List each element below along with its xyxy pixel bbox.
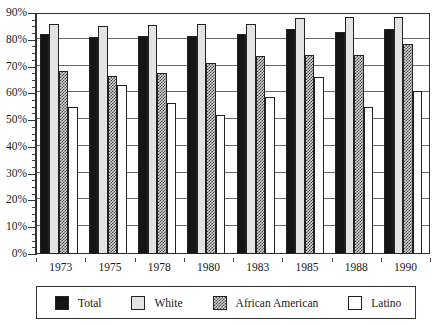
bar <box>157 73 167 254</box>
bar <box>256 56 266 254</box>
y-axis-tick <box>28 93 35 94</box>
x-axis-tick <box>282 258 283 262</box>
bar <box>246 24 256 254</box>
bar-cluster <box>135 13 184 254</box>
y-axis-tick <box>28 254 35 255</box>
bar <box>286 29 296 254</box>
y-axis-tick <box>28 120 35 121</box>
x-axis-tick <box>233 258 234 262</box>
bar <box>68 107 78 254</box>
y-axis-tick-label: 70% <box>6 61 27 73</box>
bar <box>314 77 324 254</box>
x-axis-tick-label: 1973 <box>49 261 72 273</box>
bar <box>295 18 305 254</box>
bar-cluster <box>233 13 282 254</box>
bar <box>364 107 374 254</box>
bar-cluster <box>332 13 381 254</box>
y-axis-tick-label: 0% <box>12 248 27 260</box>
legend-swatch-icon <box>55 296 69 310</box>
y-axis-tick-label: 10% <box>6 221 27 233</box>
bar <box>59 71 69 254</box>
legend-label: African American <box>236 297 319 309</box>
bar <box>413 91 423 254</box>
y-axis-tick <box>28 227 35 228</box>
legend-label: Latino <box>371 297 401 309</box>
bar <box>237 34 247 254</box>
x-axis-tick <box>135 258 136 262</box>
bar <box>187 36 197 254</box>
y-axis-tick-label: 90% <box>6 7 27 19</box>
x-axis-tick-label: 1980 <box>197 261 220 273</box>
y-axis-tick-label: 50% <box>6 114 27 126</box>
bar-cluster <box>282 13 331 254</box>
bar <box>384 29 394 254</box>
y-axis-tick-label: 40% <box>6 141 27 153</box>
bar-cluster <box>381 13 430 254</box>
legend-item-total: Total <box>55 296 101 310</box>
y-axis-tick-label: 30% <box>6 168 27 180</box>
x-axis-tick-label: 1985 <box>295 261 318 273</box>
bar <box>354 55 364 254</box>
y-axis-tick <box>28 200 35 201</box>
x-axis-tick-label: 1983 <box>246 261 269 273</box>
y-axis: 0%10%20%30%40%50%60%70%80%90% <box>0 0 36 325</box>
x-axis-tick-label: 1975 <box>98 261 121 273</box>
legend-item-white: White <box>131 296 182 310</box>
x-axis-tick <box>332 258 333 262</box>
y-axis-tick <box>28 13 35 14</box>
legend-label: Total <box>78 297 101 309</box>
bar <box>206 63 216 254</box>
x-axis-tick-label: 1988 <box>345 261 368 273</box>
legend-swatch-icon <box>131 296 145 310</box>
x-axis: 19731975197819801983198519881990 <box>36 258 430 280</box>
bar <box>167 103 177 254</box>
y-axis-tick-label: 80% <box>6 34 27 46</box>
legend-item-african-american: African American <box>213 296 319 310</box>
legend-swatch-icon <box>213 296 227 310</box>
bar <box>148 25 158 254</box>
chart-title-cropped: y <box>150 0 270 4</box>
bar <box>394 17 404 254</box>
x-axis-tick-label: 1990 <box>394 261 417 273</box>
bar <box>98 26 108 254</box>
x-axis-tick <box>85 258 86 262</box>
y-axis-tick <box>28 67 35 68</box>
bar <box>216 115 226 254</box>
x-axis-tick <box>430 258 431 262</box>
bar <box>89 37 99 254</box>
y-axis-tick <box>28 40 35 41</box>
bar <box>335 32 345 254</box>
x-axis-tick <box>36 258 37 262</box>
bar <box>138 36 148 254</box>
bar-cluster <box>85 13 134 254</box>
y-axis-tick-label: 60% <box>6 88 27 100</box>
legend-swatch-icon <box>348 296 362 310</box>
bar <box>403 44 413 254</box>
bar-chart: y 0%10%20%30%40%50%60%70%80%90% 19731975… <box>0 0 437 325</box>
legend-item-latino: Latino <box>348 296 401 310</box>
y-axis-tick <box>28 147 35 148</box>
bar-cluster <box>184 13 233 254</box>
bar <box>108 76 118 254</box>
chart-legend: TotalWhiteAfrican AmericanLatino <box>36 286 416 319</box>
x-axis-tick-label: 1978 <box>148 261 171 273</box>
bar <box>265 97 275 254</box>
bars-layer <box>36 13 430 254</box>
x-axis-tick <box>381 258 382 262</box>
bar <box>117 85 127 254</box>
x-axis-tick <box>184 258 185 262</box>
bar <box>345 17 355 254</box>
bar <box>197 24 207 254</box>
legend-label: White <box>154 297 182 309</box>
y-axis-tick-label: 20% <box>6 195 27 207</box>
bar <box>305 55 315 254</box>
bar <box>49 24 59 254</box>
bar <box>40 34 50 254</box>
y-axis-tick <box>28 174 35 175</box>
bar-cluster <box>36 13 85 254</box>
